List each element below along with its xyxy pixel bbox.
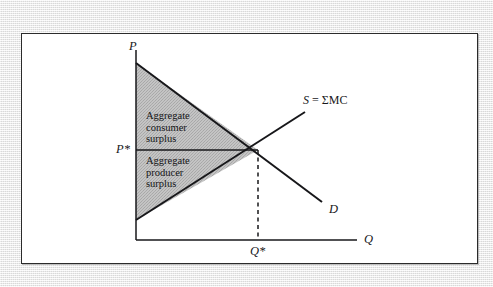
producer-surplus-label: Aggregate producer surplus: [146, 155, 190, 190]
producer-surplus-label-line-2: producer: [146, 167, 190, 179]
supply-demand-diagram: [0, 0, 493, 287]
consumer-surplus-label-line-2: consumer: [146, 122, 190, 134]
producer-surplus-label-line-3: surplus: [146, 178, 190, 190]
equilibrium-quantity-label: Q*: [250, 245, 265, 258]
consumer-surplus-label: Aggregate consumer surplus: [146, 110, 190, 145]
equilibrium-price-label: P*: [116, 143, 130, 156]
demand-curve-label: D: [329, 203, 338, 216]
y-axis-label: P: [129, 40, 137, 53]
x-axis-label: Q: [364, 233, 373, 246]
producer-surplus-label-line-1: Aggregate: [146, 155, 190, 167]
supply-curve-label-expression: = ΣMC: [309, 93, 347, 107]
supply-curve-label: S = ΣMC: [303, 94, 347, 106]
consumer-surplus-label-line-3: surplus: [146, 133, 190, 145]
consumer-surplus-label-line-1: Aggregate: [146, 110, 190, 122]
